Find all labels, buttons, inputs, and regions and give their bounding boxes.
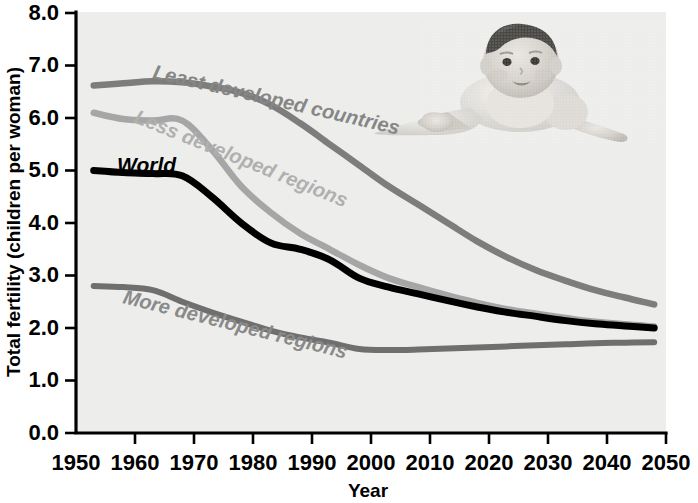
y-axis-title: Total fertility (children per woman) <box>3 67 24 377</box>
x-tick-label: 1970 <box>170 450 219 475</box>
y-tick-label: 2.0 <box>28 315 59 340</box>
x-axis-title: Year <box>348 480 389 501</box>
x-tick-label: 2020 <box>465 450 514 475</box>
y-tick-label: 8.0 <box>28 0 59 25</box>
y-tick-label: 6.0 <box>28 105 59 130</box>
y-axis-ticks: 0.01.02.03.04.05.06.07.08.0 <box>28 0 76 445</box>
chart-svg: Least developed countries Less developed… <box>0 0 698 503</box>
fertility-chart-figure: Least developed countries Less developed… <box>0 0 698 503</box>
y-tick-label: 0.0 <box>28 420 59 445</box>
y-tick-label: 5.0 <box>28 157 59 182</box>
x-tick-label: 2000 <box>347 450 396 475</box>
y-tick-label: 3.0 <box>28 262 59 287</box>
y-tick-label: 1.0 <box>28 367 59 392</box>
x-tick-label: 1980 <box>229 450 278 475</box>
baby-photo <box>375 20 680 145</box>
x-tick-label: 2010 <box>406 450 455 475</box>
series-label-world: World <box>117 153 177 176</box>
x-tick-label: 2050 <box>642 450 691 475</box>
x-tick-label: 1950 <box>52 450 101 475</box>
x-tick-label: 2030 <box>524 450 573 475</box>
y-tick-label: 4.0 <box>28 210 59 235</box>
x-tick-label: 1990 <box>288 450 337 475</box>
x-axis-ticks: 1950196019701980199020002010202020302040… <box>52 433 691 475</box>
x-tick-label: 2040 <box>583 450 632 475</box>
x-tick-label: 1960 <box>111 450 160 475</box>
y-tick-label: 7.0 <box>28 52 59 77</box>
